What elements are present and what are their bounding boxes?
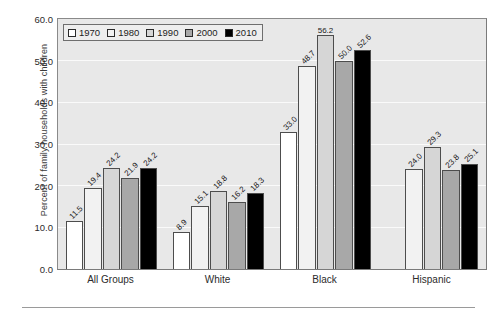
bar-white-1980[interactable]: 15.1: [191, 206, 209, 269]
legend-label: 1990: [157, 27, 178, 38]
y-axis-tick-label: 40.0: [35, 97, 54, 108]
y-axis-tick-label: 50.0: [35, 55, 54, 66]
legend-item-2010[interactable]: 2010: [225, 27, 257, 38]
bar-group-black: 33.048.756.250.052.6: [280, 19, 372, 269]
bar-black-1980[interactable]: 48.7: [298, 66, 316, 269]
plot-area: 11.519.424.221.924.28.915.118.816.218.33…: [57, 18, 487, 270]
bar-value-label: 19.4: [86, 171, 103, 188]
bar-value-label: 11.5: [67, 204, 84, 221]
bar-group-white: 8.915.118.816.218.3: [173, 19, 265, 269]
legend-item-1970[interactable]: 1970: [68, 27, 100, 38]
bar-hispanic-1980[interactable]: 24.0: [405, 169, 423, 269]
x-axis-tick-label-white: White: [205, 274, 231, 285]
bar-group-all-groups: 11.519.424.221.924.2: [66, 19, 158, 269]
plot-inner: 11.519.424.221.924.28.915.118.816.218.33…: [58, 19, 486, 269]
bar-value-label: 24.2: [141, 151, 158, 168]
bar-value-label: 18.8: [211, 173, 228, 190]
bar-white-2010[interactable]: 18.3: [247, 193, 265, 269]
bar-all-groups-1970[interactable]: 11.5: [66, 221, 84, 269]
bar-value-label: 16.2: [230, 184, 247, 201]
y-axis-tick-label: 20.0: [35, 180, 54, 191]
bar-all-groups-1990[interactable]: 24.2: [103, 168, 121, 269]
legend-swatch-icon: [185, 29, 193, 37]
bar-value-label: 33.0: [281, 114, 298, 131]
legend-label: 1970: [79, 27, 100, 38]
bar-black-1990[interactable]: 56.2: [317, 35, 335, 269]
y-axis-tick-label: 0.0: [40, 264, 53, 275]
x-axis-tick-label-all-groups: All Groups: [87, 274, 134, 285]
legend-item-1990[interactable]: 1990: [146, 27, 178, 38]
x-axis-tick-label-black: Black: [312, 274, 336, 285]
bar-value-label: 18.3: [248, 175, 265, 192]
legend-swatch-icon: [225, 29, 233, 37]
legend-swatch-icon: [107, 29, 115, 37]
bar-hispanic-2010[interactable]: 25.1: [461, 164, 479, 269]
bar-value-label: 25.1: [462, 147, 479, 164]
bar-white-1990[interactable]: 18.8: [210, 191, 228, 269]
footer-rule: [22, 307, 475, 308]
legend-label: 1980: [118, 27, 139, 38]
chart-figure: Percent of family households with childr…: [0, 0, 497, 322]
y-axis-tick-label: 10.0: [35, 222, 54, 233]
bar-group-hispanic: 24.029.323.825.1: [387, 19, 479, 269]
legend-item-1980[interactable]: 1980: [107, 27, 139, 38]
bar-hispanic-1990[interactable]: 29.3: [424, 147, 442, 269]
bar-hispanic-2000[interactable]: 23.8: [442, 170, 460, 269]
legend-swatch-icon: [68, 29, 76, 37]
bar-all-groups-2010[interactable]: 24.2: [140, 168, 158, 269]
bar-white-1970[interactable]: 8.9: [173, 232, 191, 269]
bar-value-label: 50.0: [337, 43, 354, 60]
legend-item-2000[interactable]: 2000: [185, 27, 217, 38]
bar-value-label: 48.7: [300, 49, 317, 66]
legend-label: 2000: [196, 27, 217, 38]
bar-white-2000[interactable]: 16.2: [228, 202, 246, 270]
bar-value-label: 56.2: [318, 26, 334, 35]
bar-value-label: 24.2: [104, 151, 121, 168]
bar-black-1970[interactable]: 33.0: [280, 132, 298, 270]
x-axis-tick-label-hispanic: Hispanic: [412, 274, 450, 285]
bar-black-2010[interactable]: 52.6: [354, 50, 372, 269]
bar-all-groups-1980[interactable]: 19.4: [84, 188, 102, 269]
bar-value-label: 52.6: [355, 32, 372, 49]
bar-value-label: 23.8: [444, 152, 461, 169]
bar-value-label: 29.3: [425, 130, 442, 147]
bar-black-2000[interactable]: 50.0: [335, 61, 353, 269]
legend-label: 2010: [236, 27, 257, 38]
y-axis-tick-label: 60.0: [35, 14, 54, 25]
bar-value-label: 24.0: [407, 152, 424, 169]
bar-value-label: 8.9: [174, 218, 188, 232]
chart-legend: 19701980199020002010: [63, 24, 263, 41]
bar-value-label: 15.1: [193, 189, 210, 206]
y-axis-tick-label: 30.0: [35, 139, 54, 150]
bar-value-label: 21.9: [123, 160, 140, 177]
bar-all-groups-2000[interactable]: 21.9: [121, 178, 139, 269]
legend-swatch-icon: [146, 29, 154, 37]
